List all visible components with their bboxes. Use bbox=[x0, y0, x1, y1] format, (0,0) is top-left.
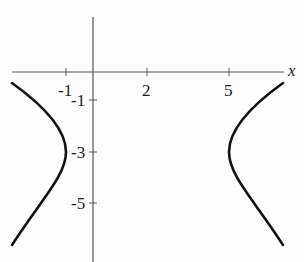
y-tick-label-neg5: -5 bbox=[71, 194, 85, 213]
hyperbola-right-branch bbox=[229, 83, 283, 245]
y-tick-label-neg1: -1 bbox=[71, 91, 85, 110]
x-tick-label-2: 2 bbox=[142, 81, 151, 100]
x-tick-label-5: 5 bbox=[224, 81, 233, 100]
hyperbola-graph: -1 2 5 -1 -3 -5 x bbox=[0, 0, 304, 262]
y-tick-label-neg3: -3 bbox=[71, 143, 85, 162]
hyperbola-left-branch bbox=[12, 83, 66, 245]
x-axis-label: x bbox=[287, 61, 296, 80]
plot-canvas: -1 2 5 -1 -3 -5 x bbox=[0, 0, 304, 262]
